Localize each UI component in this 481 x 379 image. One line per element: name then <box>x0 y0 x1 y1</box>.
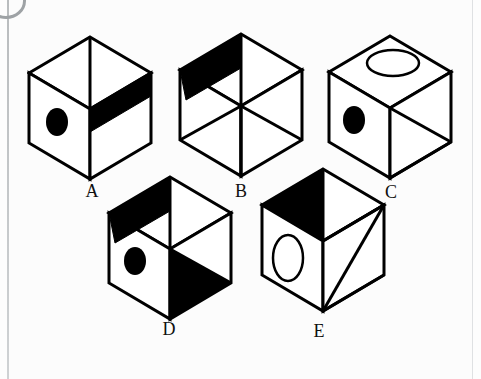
cube-figure-d[interactable] <box>105 172 235 322</box>
cube-figure-e[interactable] <box>253 163 393 321</box>
cube-b-drawing <box>176 28 306 180</box>
cube-label-e: E <box>306 322 332 340</box>
puzzle-page: A B C <box>0 0 481 379</box>
cube-label-d: D <box>156 320 182 338</box>
page-right-edge-rule <box>472 0 473 379</box>
cube-d-left-filled-ellipse <box>124 247 146 275</box>
page-left-edge-rule <box>7 0 9 379</box>
cube-c-drawing <box>325 30 455 182</box>
cube-d-drawing <box>105 172 235 322</box>
cube-figure-c[interactable] <box>325 30 455 182</box>
cube-c-left-filled-ellipse <box>343 106 365 134</box>
cube-label-a: A <box>79 182 105 200</box>
cube-a-left-filled-ellipse <box>46 108 68 136</box>
cube-a-drawing <box>27 33 155 183</box>
cube-e-drawing <box>253 163 393 321</box>
cube-figure-a[interactable] <box>27 33 155 183</box>
cube-figure-b[interactable] <box>176 28 306 180</box>
